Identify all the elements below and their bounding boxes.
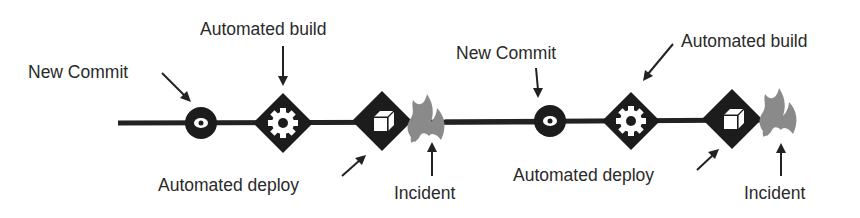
build-label: Automated build	[200, 19, 326, 39]
commit-icon	[543, 116, 557, 126]
build-node	[602, 92, 660, 150]
build-arrow	[643, 44, 673, 81]
flame-icon	[760, 88, 797, 136]
gear-icon	[616, 106, 646, 136]
cycle-2: New Commit Automated build Automated dep…	[456, 31, 807, 203]
build-label: Automated build	[681, 31, 807, 51]
incident-label: Incident	[394, 183, 455, 203]
build-arrow	[278, 46, 288, 86]
commit-label: New Commit	[456, 43, 556, 63]
deploy-node	[702, 89, 762, 149]
commit-node	[185, 107, 217, 139]
deploy-arrow	[342, 155, 366, 176]
deployment-timeline-diagram: New Commit Automated build Automated dep…	[0, 0, 860, 218]
incident-arrow	[427, 142, 437, 176]
deploy-arrow	[697, 149, 719, 170]
deploy-label: Automated deploy	[513, 165, 654, 185]
commit-node	[534, 105, 566, 137]
build-node	[253, 93, 313, 153]
commit-arrow	[533, 68, 543, 98]
incident-arrow	[776, 143, 786, 176]
cycle-1: New Commit Automated build Automated dep…	[28, 19, 455, 203]
gear-icon	[268, 108, 298, 138]
deploy-label: Automated deploy	[158, 175, 299, 195]
flame-icon	[408, 94, 445, 142]
cube-icon	[724, 109, 744, 129]
commit-label: New Commit	[28, 62, 128, 82]
commit-icon	[194, 118, 208, 128]
commit-arrow	[162, 73, 191, 102]
incident-label: Incident	[744, 183, 805, 203]
cube-icon	[374, 111, 394, 131]
deploy-node	[352, 91, 412, 151]
